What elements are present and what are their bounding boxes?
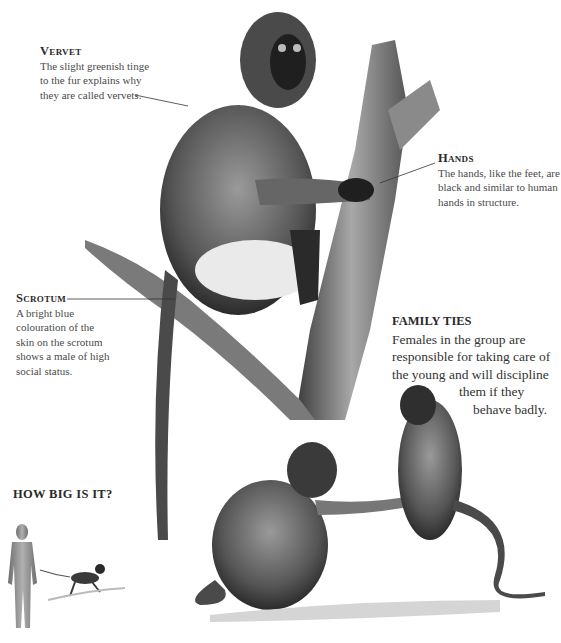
- callout-hands-line: black and similar to human: [438, 180, 560, 195]
- family-ties-line: behave badly.: [392, 401, 561, 419]
- how-big-heading: HOW BIG IS IT?: [13, 487, 113, 502]
- vervet-scale-silhouette: [40, 564, 125, 600]
- callout-scrotum: Scrotum A bright blue colouration of the…: [16, 291, 109, 378]
- callout-scrotum-line: A bright blue: [16, 306, 109, 321]
- callout-scrotum-heading: Scrotum: [16, 291, 109, 306]
- family-ties-heading: FAMILY TIES: [392, 313, 561, 331]
- family-group-illustration: [195, 385, 545, 622]
- callout-hands: Hands The hands, like the feet, are blac…: [438, 151, 560, 209]
- callout-vervet-line: The slight greenish tinge: [40, 59, 149, 74]
- callout-scrotum-line: skin on the scrotum: [16, 335, 109, 350]
- callout-scrotum-line: shows a male of high: [16, 349, 109, 364]
- callout-scrotum-line: social status.: [16, 364, 109, 379]
- family-ties-line: responsible for taking care of: [392, 348, 561, 366]
- family-ties-block: FAMILY TIES Females in the group are res…: [392, 313, 561, 418]
- callout-vervet: Vervet The slight greenish tinge to the …: [40, 44, 149, 102]
- size-comparison-illustration: [8, 524, 125, 628]
- callout-scrotum-line: colouration of the: [16, 320, 109, 335]
- human-silhouette: [8, 524, 37, 628]
- callout-vervet-line: they are called vervets.: [40, 88, 149, 103]
- callout-hands-line: hands in structure.: [438, 195, 560, 210]
- family-ties-line: the young and will discipline: [392, 366, 561, 384]
- family-ties-line: them if they: [392, 383, 561, 401]
- family-ties-line: Females in the group are: [392, 331, 561, 349]
- callout-vervet-heading: Vervet: [40, 44, 149, 59]
- callout-hands-heading: Hands: [438, 151, 560, 166]
- callout-vervet-line: to the fur explains why: [40, 73, 149, 88]
- callout-hands-line: The hands, like the feet, are: [438, 166, 560, 181]
